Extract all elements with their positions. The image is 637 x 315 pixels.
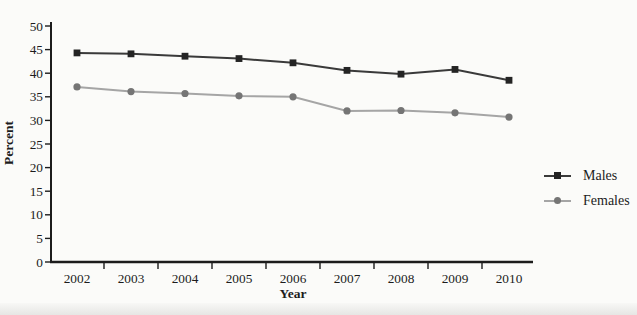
chart-figure: 0510152025303540455020022003200420052006…: [0, 0, 637, 315]
males-data-point-marker: [398, 71, 405, 78]
males-legend-label: Males: [583, 168, 617, 184]
females-data-point-marker: [289, 93, 296, 100]
males-data-point-marker: [74, 50, 81, 57]
females-legend-label: Females: [583, 193, 630, 209]
x-axis-tick-label: 2003: [118, 271, 145, 286]
y-axis-tick-label: 40: [30, 66, 44, 81]
plot-area: 0510152025303540455020022003200420052006…: [30, 19, 533, 286]
y-axis-tick-label: 50: [30, 19, 44, 34]
males-data-point-marker: [128, 50, 135, 57]
legend-item-males: Males: [544, 163, 630, 188]
females-legend-key-icon: [544, 196, 571, 205]
males-series-line: [77, 53, 509, 80]
y-axis-tick-label: 45: [30, 42, 44, 57]
x-axis-tick-label: 2005: [226, 271, 253, 286]
line-chart: 0510152025303540455020022003200420052006…: [0, 0, 637, 315]
males-data-point-marker: [452, 66, 459, 73]
males-legend-key-icon: [544, 171, 571, 180]
females-data-point-marker: [505, 113, 512, 120]
y-axis-title: Percent: [1, 121, 16, 165]
females-data-point-marker: [181, 90, 188, 97]
y-axis-tick-label: 20: [30, 160, 44, 175]
y-axis-tick-label: 25: [30, 137, 44, 152]
x-axis-tick-label: 2006: [280, 271, 307, 286]
x-axis-title: Year: [280, 286, 307, 301]
males-data-point-marker: [506, 77, 513, 84]
females-series-line: [77, 87, 509, 117]
y-axis-tick-label: 5: [36, 231, 43, 246]
x-axis-tick-label: 2008: [388, 271, 415, 286]
females-data-point-marker: [73, 83, 80, 90]
legend-item-females: Females: [544, 188, 630, 213]
females-data-point-marker: [343, 107, 350, 114]
x-axis-tick-label: 2002: [64, 271, 91, 286]
chart-legend: Males Females: [544, 163, 630, 213]
females-data-point-marker: [235, 92, 242, 99]
males-data-point-marker: [344, 67, 351, 74]
x-axis-tick-label: 2009: [442, 271, 469, 286]
y-axis-tick-label: 10: [30, 207, 44, 222]
y-axis-tick-label: 15: [30, 184, 44, 199]
y-axis-tick-label: 0: [36, 255, 43, 270]
females-data-point-marker: [451, 109, 458, 116]
x-axis-tick-label: 2004: [172, 271, 199, 286]
males-data-point-marker: [290, 59, 297, 66]
females-data-point-marker: [127, 88, 134, 95]
x-axis-tick-label: 2010: [496, 271, 523, 286]
females-data-point-marker: [397, 107, 404, 114]
males-data-point-marker: [236, 55, 243, 62]
x-axis-tick-label: 2007: [334, 271, 361, 286]
males-data-point-marker: [182, 53, 189, 60]
y-axis-tick-label: 30: [30, 113, 44, 128]
y-axis-tick-label: 35: [30, 89, 44, 104]
